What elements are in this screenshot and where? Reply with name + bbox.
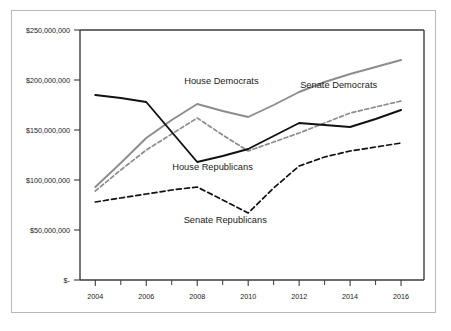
x-tick-label: 2006: [138, 292, 154, 301]
x-tick-label: 2004: [87, 292, 103, 301]
x-tick-label: 2012: [291, 292, 307, 301]
series-line-senate-democrats: [95, 101, 401, 191]
y-tick-label: $250,000,000: [26, 26, 70, 35]
line-chart: $-$50,000,000$100,000,000$150,000,000$20…: [0, 0, 451, 331]
series-label-house-republicans: House Republicans: [172, 162, 253, 172]
y-tick-label: $50,000,000: [30, 226, 70, 235]
y-tick-label: $150,000,000: [26, 126, 70, 135]
x-tick-label: 2014: [342, 292, 358, 301]
series-labels: House DemocratsSenate DemocratsHouse Rep…: [172, 76, 377, 225]
x-tick-label: 2008: [189, 292, 205, 301]
x-axis-ticks: 2004200620082010201220142016: [87, 280, 409, 301]
y-tick-label: $-: [64, 276, 71, 285]
x-tick-label: 2010: [240, 292, 256, 301]
series-label-senate-republicans: Senate Republicans: [184, 215, 268, 225]
y-tick-label: $200,000,000: [26, 76, 70, 85]
y-axis-ticks: $-$50,000,000$100,000,000$150,000,000$20…: [26, 26, 80, 285]
series-label-senate-democrats: Senate Democrats: [300, 80, 377, 90]
series-line-house-republicans: [95, 95, 401, 162]
x-tick-label: 2016: [393, 292, 409, 301]
series-label-house-democrats: House Democrats: [184, 76, 259, 86]
y-tick-label: $100,000,000: [26, 176, 70, 185]
